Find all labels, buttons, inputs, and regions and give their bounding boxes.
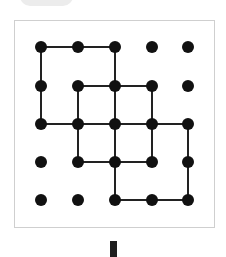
grid-dot bbox=[146, 41, 158, 53]
grid-dot bbox=[109, 80, 121, 92]
grid-dot bbox=[146, 80, 158, 92]
grid-dot bbox=[109, 194, 121, 206]
grid-dot bbox=[72, 80, 84, 92]
grid-dot bbox=[109, 156, 121, 168]
grid-dot bbox=[72, 194, 84, 206]
grid-dot bbox=[35, 41, 47, 53]
grid-dot bbox=[109, 118, 121, 130]
grid-dot bbox=[182, 80, 194, 92]
grid-dot bbox=[35, 156, 47, 168]
grid-dot bbox=[182, 118, 194, 130]
grid-dot bbox=[72, 118, 84, 130]
grid-dot bbox=[72, 156, 84, 168]
grid-dot bbox=[35, 194, 47, 206]
grid-dot bbox=[72, 41, 84, 53]
grid-dot bbox=[109, 41, 121, 53]
dot-grid-diagram bbox=[0, 0, 226, 257]
grid-dot bbox=[146, 156, 158, 168]
grid-dot bbox=[182, 41, 194, 53]
grid-dot bbox=[146, 118, 158, 130]
vertical-bar-indicator bbox=[110, 241, 117, 257]
grid-dot bbox=[146, 194, 158, 206]
grid-dot bbox=[182, 194, 194, 206]
grid-dot bbox=[182, 156, 194, 168]
grid-dot bbox=[35, 80, 47, 92]
grid-dot bbox=[35, 118, 47, 130]
